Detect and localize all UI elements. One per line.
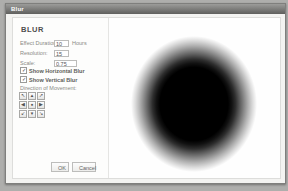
show-horizontal-blur-checkbox[interactable]: ✓Show Horizontal Blur	[20, 66, 85, 74]
show-vertical-blur-label: Show Vertical Blur	[29, 77, 77, 83]
direction-up-left-icon[interactable]: ↖	[19, 92, 27, 100]
blur-preview-area	[108, 18, 280, 178]
effect-duration-suffix: Hours	[72, 40, 87, 46]
checkbox-checked-icon: ✓	[20, 76, 27, 83]
direction-down-left-icon[interactable]: ↙	[19, 110, 27, 118]
direction-down-icon[interactable]: ▼	[28, 110, 36, 118]
page-title: BLUR	[21, 25, 44, 34]
blur-checkboxes: ✓Show Horizontal Blur ✓Show Vertical Blu…	[20, 66, 85, 84]
blur-dialog: Blur BLUR Update Preview Effect Duration…	[5, 3, 286, 184]
dialog-content-panel: BLUR Update Preview Effect Duration:Hour…	[12, 17, 281, 179]
effect-duration-input[interactable]	[54, 40, 69, 47]
blurred-ellipse-preview	[131, 36, 257, 172]
direction-right-icon[interactable]: ▶	[37, 101, 45, 109]
show-horizontal-blur-label: Show Horizontal Blur	[29, 68, 85, 74]
effect-duration-row: Effect Duration:Hours	[20, 38, 87, 47]
resolution-row: Resolution:	[20, 48, 69, 57]
dialog-footer: OK Cancel	[13, 162, 280, 173]
direction-pad: ↖ ▲ ↗ ◀ ● ▶ ↙ ▼ ↘	[19, 92, 46, 119]
checkbox-checked-icon: ✓	[20, 67, 27, 74]
effect-duration-label: Effect Duration:	[20, 39, 54, 48]
direction-up-right-icon[interactable]: ↗	[37, 92, 45, 100]
direction-of-movement-label: Direction of Movement:	[20, 85, 77, 91]
direction-left-icon[interactable]: ◀	[19, 101, 27, 109]
show-vertical-blur-checkbox[interactable]: ✓Show Vertical Blur	[20, 75, 85, 83]
direction-down-right-icon[interactable]: ↘	[37, 110, 45, 118]
ok-button[interactable]: OK	[51, 162, 69, 172]
direction-up-icon[interactable]: ▲	[28, 92, 36, 100]
cancel-button[interactable]: Cancel	[72, 162, 96, 172]
resolution-input[interactable]	[54, 50, 69, 57]
direction-center-icon[interactable]: ●	[28, 101, 36, 109]
window-titlebar[interactable]: Blur	[6, 4, 285, 14]
resolution-label: Resolution:	[20, 49, 54, 58]
